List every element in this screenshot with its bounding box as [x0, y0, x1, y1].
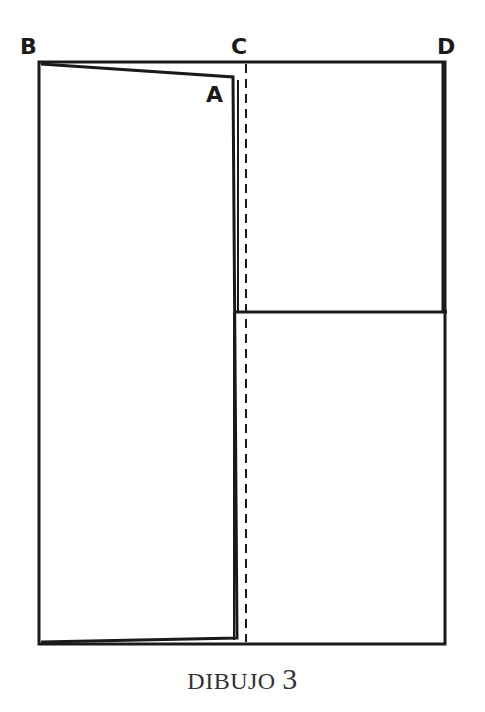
label-c: C — [231, 36, 247, 58]
caption-number: 3 — [282, 662, 298, 695]
folding-diagram — [0, 0, 485, 712]
folded-flap — [41, 64, 237, 642]
label-d: D — [437, 36, 455, 58]
label-b: B — [20, 36, 37, 58]
caption-word: DIBUJO — [187, 668, 275, 694]
figure-caption: DIBUJO 3 — [0, 662, 485, 696]
label-a: A — [206, 84, 223, 106]
outer-sheet — [39, 62, 445, 644]
